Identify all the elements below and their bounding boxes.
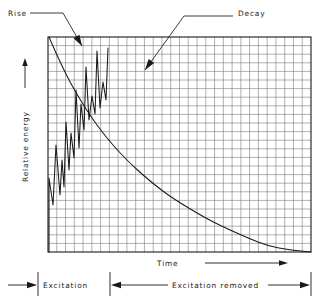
excitation-left-arrow-head <box>27 282 37 288</box>
time-arrow-head <box>279 260 288 266</box>
y-axis-arrow-head <box>22 58 27 66</box>
chart-grid <box>48 37 311 252</box>
x-axis-label: Time <box>156 259 179 268</box>
figure-canvas: Rise Decay Relative energy Time Excitati… <box>0 0 323 306</box>
y-axis-group: Relative energy <box>21 58 30 182</box>
decay-curve-path <box>49 37 311 252</box>
y-axis-label: Relative energy <box>21 111 30 182</box>
excitation-right-arrow-head <box>111 282 121 288</box>
annotation-arrow-head <box>145 59 154 70</box>
rise-label: Rise <box>8 9 27 18</box>
excitation-removed-label: Excitation removed <box>172 281 259 290</box>
annotation-leader-line <box>145 16 233 70</box>
phase-dimension-bar: Excitation Excitation removed <box>8 272 311 296</box>
decay-label: Decay <box>238 9 265 18</box>
x-axis-group: Time <box>156 259 288 268</box>
excitation-removed-right-arrow-head <box>300 282 310 288</box>
rise-curve <box>49 48 108 252</box>
excitation-label: Excitation <box>43 281 88 290</box>
phosphorescence-figure: Rise Decay Relative energy Time Excitati… <box>0 0 323 306</box>
